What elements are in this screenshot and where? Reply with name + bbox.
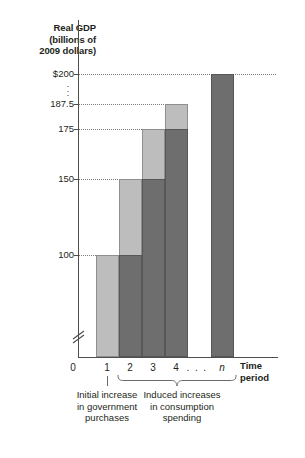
y-tick-label-150: 150 — [22, 174, 74, 184]
bar-period-1-light — [96, 255, 119, 357]
bar-period-3-dark — [142, 179, 165, 357]
y-tick-label-200: $200 — [22, 69, 74, 79]
x-tick-label-ellipsis: . . . — [186, 362, 208, 374]
x-axis-title-line-2: period — [240, 372, 302, 384]
x-tick-label-0: 0 — [62, 362, 84, 374]
bar-period-2-dark — [119, 255, 142, 357]
bar-period-4-dark — [165, 129, 188, 357]
caption-induced-increases: Induced increases in consumption spendin… — [127, 389, 237, 424]
y-axis-title-line-2: (billions of — [8, 34, 96, 46]
caption-induced-line-1: Induced increases — [127, 389, 237, 401]
y-tick-label-187-5: 187.5 — [22, 99, 74, 109]
x-tick-label-3: 3 — [142, 362, 164, 374]
leader-line-period-1 — [107, 376, 108, 386]
axis-break-icon — [71, 326, 87, 348]
chart-canvas: Real GDP (billions of 2009 dollars) $200… — [0, 0, 305, 458]
caption-induced-line-3: spending — [127, 412, 237, 424]
x-tick-label-n: n — [211, 362, 233, 374]
x-tick-label-2: 2 — [119, 362, 141, 374]
y-axis-title: Real GDP (billions of 2009 dollars) — [8, 22, 96, 57]
y-axis-line — [78, 20, 79, 358]
x-axis-line — [78, 357, 278, 358]
bar-period-n-dark — [211, 74, 234, 357]
y-tick-label-175: 175 — [22, 124, 74, 134]
y-axis-title-line-1: Real GDP — [8, 22, 96, 34]
brace-periods-2-to-n — [117, 374, 237, 387]
ellipsis-dot-3: . — [63, 91, 73, 96]
x-axis-title-line-1: Time — [240, 360, 302, 372]
x-tick-label-1: 1 — [96, 362, 118, 374]
caption-induced-line-2: in consumption — [127, 401, 237, 413]
x-axis-title: Time period — [240, 360, 302, 383]
gridline-200 — [79, 74, 276, 75]
y-tick-label-100: 100 — [22, 250, 74, 260]
x-tick-label-4: 4 — [165, 362, 187, 374]
y-axis-ellipsis: . . . — [63, 82, 73, 96]
y-axis-title-line-3: 2009 dollars) — [8, 45, 96, 57]
